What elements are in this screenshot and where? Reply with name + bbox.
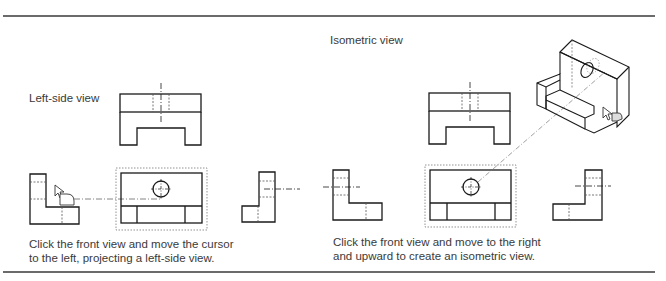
drag-handle-icon-isometric bbox=[612, 113, 622, 121]
right-side-view-right-panel bbox=[553, 170, 611, 220]
front-view-right-panel[interactable] bbox=[425, 165, 516, 227]
top-view-right-panel bbox=[429, 82, 510, 144]
projection-line-isometric bbox=[478, 72, 605, 182]
cursor-arrow-icon-isometric bbox=[603, 107, 612, 120]
top-view-left-panel bbox=[120, 83, 201, 145]
right-side-view-left-panel bbox=[242, 172, 300, 222]
drag-handle-icon bbox=[60, 194, 74, 205]
left-side-view-right-panel bbox=[323, 170, 382, 220]
drawing-canvas bbox=[0, 0, 666, 281]
selection-box-right bbox=[425, 165, 516, 227]
